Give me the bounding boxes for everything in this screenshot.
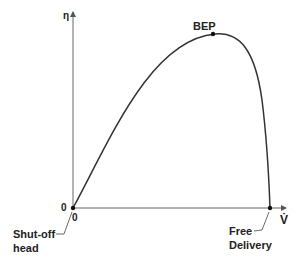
origin-point (71, 206, 75, 210)
bep-label: BEP (193, 20, 216, 32)
free-delivery-label-line1: Free (229, 225, 252, 237)
shutoff-leader (56, 212, 72, 234)
efficiency-diagram: η V̇ 0 0 BEP Shut-off head Free Delivery (0, 0, 300, 257)
origin-y-zero: 0 (61, 202, 67, 213)
free-delivery-leader (254, 212, 269, 231)
origin-x-zero: 0 (72, 212, 78, 223)
bep-point (211, 32, 215, 36)
x-axis-label: V̇ (280, 212, 288, 227)
shutoff-label-line1: Shut-off (13, 228, 55, 240)
free-delivery-point (268, 206, 272, 210)
free-delivery-label-line2: Delivery (229, 239, 273, 251)
efficiency-curve (73, 34, 270, 208)
shutoff-label-line2: head (13, 242, 39, 254)
y-axis-label: η (63, 10, 69, 21)
